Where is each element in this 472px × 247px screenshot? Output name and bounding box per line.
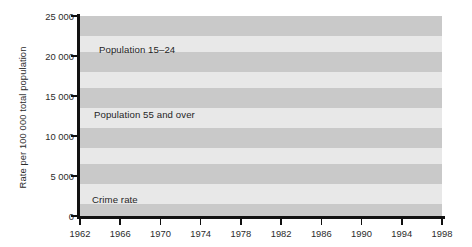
background-band xyxy=(80,204,442,216)
x-axis-tick-label: 1978 xyxy=(219,228,263,239)
x-axis-tick xyxy=(79,219,81,225)
background-band xyxy=(80,16,442,36)
x-axis-tick xyxy=(240,219,242,225)
background-band xyxy=(80,164,442,184)
x-axis-tick xyxy=(321,219,323,225)
background-band xyxy=(80,128,442,148)
y-axis-tick xyxy=(71,135,78,137)
y-axis-tick xyxy=(71,215,78,217)
x-axis-tick-label: 1986 xyxy=(299,228,343,239)
population-15-24-label: Population 15–24 xyxy=(99,44,175,55)
x-axis-tick xyxy=(361,219,363,225)
x-axis-tick-label: 1998 xyxy=(420,228,464,239)
population-55-over-label: Population 55 and over xyxy=(94,109,195,120)
y-axis-tick-label: 10 000 xyxy=(18,131,74,142)
x-axis-tick-label: 1970 xyxy=(138,228,182,239)
x-axis-tick-label: 1962 xyxy=(58,228,102,239)
crime-rate-label: Crime rate xyxy=(92,194,138,205)
x-axis-tick-label: 1994 xyxy=(380,228,424,239)
x-axis-tick xyxy=(200,219,202,225)
y-axis-tick xyxy=(71,175,78,177)
background-band xyxy=(80,88,442,108)
x-axis-tick xyxy=(441,219,443,225)
y-axis-tick-labels: 05 00010 00015 00020 00025 000 xyxy=(18,0,74,247)
y-axis-tick xyxy=(71,15,78,17)
background-band xyxy=(80,72,442,88)
y-axis-tick-label: 15 000 xyxy=(18,91,74,102)
x-axis-tick-label: 1966 xyxy=(98,228,142,239)
y-axis-tick-label: 0 xyxy=(18,211,74,222)
y-axis-tick xyxy=(71,55,78,57)
y-axis-line xyxy=(77,14,80,218)
x-axis-tick xyxy=(119,219,121,225)
chart-figure: Rate per 100 000 total population 05 000… xyxy=(0,0,472,247)
x-axis-line xyxy=(77,216,445,219)
background-band xyxy=(80,148,442,164)
background-band xyxy=(80,52,442,72)
x-axis-tick-label: 1982 xyxy=(259,228,303,239)
y-axis-tick-label: 25 000 xyxy=(18,11,74,22)
x-axis-tick xyxy=(280,219,282,225)
y-axis-tick-label: 20 000 xyxy=(18,51,74,62)
y-axis-tick-label: 5 000 xyxy=(18,171,74,182)
x-axis-tick-label: 1990 xyxy=(340,228,384,239)
x-axis-tick xyxy=(160,219,162,225)
y-axis-tick xyxy=(71,95,78,97)
x-axis-tick xyxy=(401,219,403,225)
x-axis-tick-label: 1974 xyxy=(179,228,223,239)
